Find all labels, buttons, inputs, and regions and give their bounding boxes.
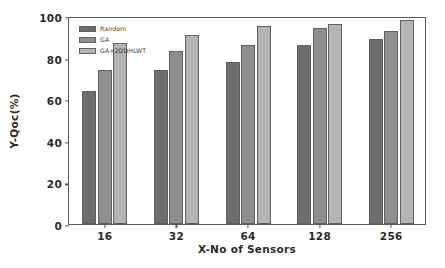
bar — [226, 62, 240, 224]
legend-label: GA — [100, 36, 109, 43]
plot-area: 020406080100 163264128256 RandomGAGA+2DD… — [68, 17, 426, 225]
legend-label: GA+2DDHLWT — [100, 47, 146, 54]
y-tick-label: 80 — [47, 54, 69, 66]
bar — [400, 20, 414, 224]
x-tick-mark — [176, 224, 177, 228]
bar — [241, 45, 255, 224]
x-tick-mark — [104, 224, 105, 228]
legend-swatch-icon — [79, 37, 96, 43]
y-tick-label: 20 — [47, 178, 69, 190]
bar-chart-figure: Y-Qoc(%) X-No of Sensors 020406080100 16… — [0, 0, 445, 268]
bar — [369, 39, 383, 224]
legend: RandomGAGA+2DDHLWT — [77, 23, 148, 56]
y-axis-label: Y-Qoc(%) — [8, 93, 20, 148]
legend-label: Random — [100, 25, 126, 32]
x-tick-label: 16 — [97, 230, 112, 242]
x-tick-label: 256 — [380, 230, 403, 242]
bar — [384, 31, 398, 224]
bar — [328, 24, 342, 224]
legend-swatch-icon — [79, 48, 96, 54]
bar — [313, 28, 327, 224]
y-tick-label: 40 — [47, 137, 69, 149]
legend-item[interactable]: GA+2DDHLWT — [79, 46, 146, 55]
y-tick-label: 100 — [39, 12, 69, 24]
legend-item[interactable]: Random — [79, 24, 146, 33]
bar — [169, 51, 183, 224]
x-tick-mark — [319, 224, 320, 228]
legend-item[interactable]: GA — [79, 35, 146, 44]
bar — [113, 43, 127, 224]
bar — [297, 45, 311, 224]
y-tick-label: 0 — [54, 220, 69, 232]
x-tick-label: 64 — [240, 230, 255, 242]
y-tick-label: 60 — [47, 95, 69, 107]
x-axis-label: X-No of Sensors — [198, 243, 296, 255]
bar — [185, 35, 199, 224]
bar — [257, 26, 271, 224]
bar — [98, 70, 112, 224]
x-tick-label: 128 — [308, 230, 331, 242]
bar — [154, 70, 168, 224]
legend-swatch-icon — [79, 26, 96, 32]
x-tick-mark — [391, 224, 392, 228]
x-tick-label: 32 — [169, 230, 184, 242]
x-tick-mark — [247, 224, 248, 228]
bar — [82, 91, 96, 224]
